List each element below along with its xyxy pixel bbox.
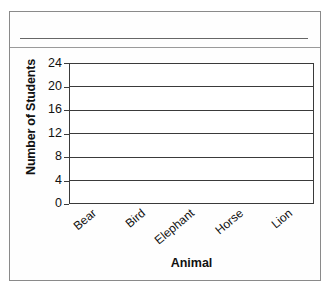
y-tick-mark [64, 204, 69, 205]
gridline [70, 180, 313, 181]
gridline [70, 133, 313, 134]
y-tick-label: 8 [40, 150, 62, 163]
gridline [70, 157, 313, 158]
y-tick-label: 0 [40, 197, 62, 210]
x-tick-label-lion: Lion [240, 206, 295, 255]
gridline [70, 86, 313, 87]
gridline [70, 110, 313, 111]
x-axis-title: Animal [69, 256, 314, 270]
title-blank-line [20, 38, 308, 39]
x-tick-label-horse: Horse [191, 206, 246, 255]
worksheet-title-area [10, 12, 320, 48]
worksheet-frame: Number of Students 24 20 16 12 8 4 0 [9, 11, 321, 281]
y-tick-label: 4 [40, 174, 62, 187]
y-tick-label: 16 [40, 103, 62, 116]
y-tick-label: 12 [40, 127, 62, 140]
y-tick-label: 20 [40, 80, 62, 93]
y-tick-label: 24 [40, 57, 62, 70]
x-tick-label-elephant: Elephant [142, 206, 197, 255]
bar-chart: Number of Students 24 20 16 12 8 4 0 [10, 48, 320, 282]
plot-area [69, 63, 314, 204]
x-tick-label-bird: Bird [93, 206, 148, 255]
